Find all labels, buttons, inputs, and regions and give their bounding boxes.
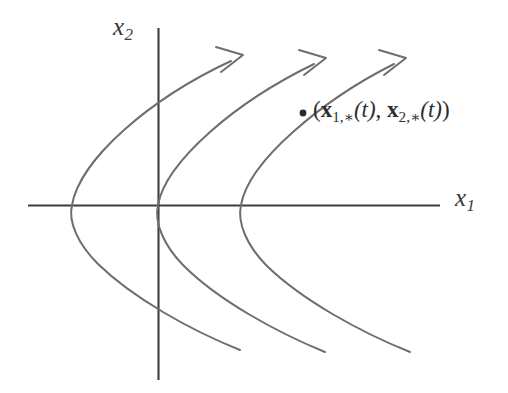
x-axis-label-subscript: 1 (467, 196, 476, 215)
point-annotation-label: (x1,∗(t), x2,∗(t)) (313, 98, 450, 124)
annotation-x1-subscript: 1,∗ (332, 108, 354, 125)
y-axis-label-subscript: 2 (125, 25, 134, 44)
annotation-x1-argument: (t) (354, 97, 376, 122)
annotation-x2-subscript: 2,∗ (399, 108, 421, 125)
x-axis-label: x1 (455, 185, 475, 214)
annotation-x1-symbol: x (321, 97, 333, 122)
arrowhead-trajectory-1 (216, 47, 243, 72)
figure-canvas (0, 0, 508, 393)
y-axis-label-symbol: x (113, 13, 124, 40)
annotation-separator: , (376, 97, 388, 122)
y-axis-label: x2 (113, 14, 133, 43)
annotation-close-paren: ) (442, 97, 450, 122)
x-axis-label-symbol: x (455, 184, 466, 211)
trajectory-point-marker (300, 110, 307, 117)
phase-portrait-figure: x2 x1 (x1,∗(t), x2,∗(t)) (0, 0, 508, 393)
arrowhead-trajectory-3 (379, 50, 406, 75)
annotation-open-paren: ( (313, 97, 321, 122)
annotation-x2-argument: (t) (420, 97, 442, 122)
annotation-x2-symbol: x (387, 97, 399, 122)
arrowhead-trajectory-2 (299, 50, 326, 75)
axes-group (28, 28, 440, 380)
arrowheads-group (216, 47, 406, 75)
